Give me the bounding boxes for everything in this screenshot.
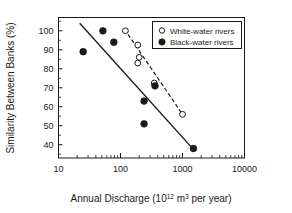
y-axis-tick-label: 100 bbox=[38, 26, 53, 36]
scatter-plot-svg: 100908070605040 10100100010000 Similarit… bbox=[0, 0, 292, 213]
x-axis-tick-label: 10 bbox=[53, 164, 63, 174]
y-axis-title: Similarity Between Banks (%) bbox=[5, 22, 16, 153]
data-point-white-water bbox=[135, 42, 141, 48]
x-axis-title-tail: per year) bbox=[189, 193, 232, 204]
y-axis-tick-label: 50 bbox=[43, 121, 53, 131]
data-point-white-water bbox=[136, 54, 142, 60]
y-axis-tick-label: 60 bbox=[43, 102, 53, 112]
data-point-black-water bbox=[141, 120, 148, 127]
x-axis-title: Annual Discharge (1012 m3 per year) bbox=[71, 193, 232, 205]
x-axis-title-mid: m bbox=[174, 193, 185, 204]
data-point-white-water bbox=[135, 60, 141, 66]
data-point-black-water bbox=[110, 39, 117, 46]
y-axis-tick-label: 40 bbox=[43, 140, 53, 150]
legend-label: White-water rivers bbox=[170, 27, 234, 36]
y-axis-tick-label: 70 bbox=[43, 83, 53, 93]
data-point-black-water bbox=[80, 48, 87, 55]
x-axis-tick-label: 1000 bbox=[172, 164, 192, 174]
legend-marker-white-water bbox=[159, 28, 164, 33]
y-axis-tick-label: 80 bbox=[43, 64, 53, 74]
data-point-black-water bbox=[141, 98, 148, 105]
data-point-black-water bbox=[152, 82, 159, 89]
data-point-black-water bbox=[190, 145, 197, 152]
data-point-white-water bbox=[180, 111, 186, 117]
chart-legend: White-water riversBlack-water rivers bbox=[153, 22, 242, 49]
x-axis-title-main: Annual Discharge (10 bbox=[71, 193, 168, 204]
x-axis-tick-label: 10000 bbox=[232, 164, 257, 174]
x-axis-tick-label: 100 bbox=[113, 164, 128, 174]
legend-marker-black-water bbox=[159, 39, 165, 45]
chart-figure: 100908070605040 10100100010000 Similarit… bbox=[0, 0, 292, 213]
data-point-white-water bbox=[123, 28, 129, 34]
y-axis-tick-label: 90 bbox=[43, 45, 53, 55]
data-point-black-water bbox=[99, 27, 106, 34]
legend-label: Black-water rivers bbox=[170, 38, 234, 47]
